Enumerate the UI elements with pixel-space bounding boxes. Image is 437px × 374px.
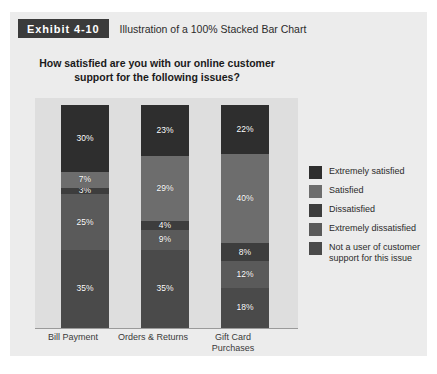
chart-plot-area: 30%7%3%25%35% 23%29%4%9%35% 22%40%8%12%1… bbox=[35, 98, 298, 329]
bar-segment: 40% bbox=[221, 154, 269, 243]
chart-title: How satisfied are you with our online cu… bbox=[28, 56, 286, 84]
bar-segment-label: 30% bbox=[76, 134, 93, 143]
axis-label-line: Orders & Returns bbox=[109, 332, 197, 343]
x-axis-labels: Bill Payment Orders & Returns Gift CardP… bbox=[35, 332, 298, 362]
bar-segment: 29% bbox=[141, 156, 189, 221]
bar-segment-label: 25% bbox=[76, 218, 93, 227]
legend-item: Not a user of customer support for this … bbox=[309, 242, 437, 264]
bar-segment: 3% bbox=[61, 188, 109, 195]
legend-label: Extremely satisfied bbox=[322, 166, 405, 177]
legend-item: Extremely dissatisfied bbox=[309, 223, 437, 236]
bar-segment: 30% bbox=[61, 105, 109, 172]
bar-segment: 4% bbox=[141, 221, 189, 230]
bar-segment-label: 9% bbox=[159, 235, 171, 244]
axis-label-bill-payment: Bill Payment bbox=[29, 332, 117, 343]
axis-label-line: Purchases bbox=[189, 343, 277, 354]
stacked-bar-bill-payment: 30%7%3%25%35% bbox=[61, 105, 109, 328]
axis-label-line: Gift Card bbox=[189, 332, 277, 343]
exhibit-header: Exhibit 4-10 Illustration of a 100% Stac… bbox=[18, 19, 306, 38]
legend-item: Dissatisfied bbox=[309, 204, 437, 217]
bar-segment-label: 29% bbox=[156, 184, 173, 193]
bar-segment-label: 40% bbox=[236, 194, 253, 203]
bar-segment: 12% bbox=[221, 261, 269, 288]
axis-label-gift-card-purchases: Gift CardPurchases bbox=[189, 332, 277, 354]
bar-segment: 18% bbox=[221, 288, 269, 328]
bar-segment: 35% bbox=[61, 250, 109, 328]
stacked-bar-orders-returns: 23%29%4%9%35% bbox=[141, 105, 189, 328]
bar-segment-label: 3% bbox=[79, 188, 91, 195]
bar-segment-label: 23% bbox=[156, 126, 173, 135]
bar-segment: 23% bbox=[141, 105, 189, 156]
axis-label-orders-returns: Orders & Returns bbox=[109, 332, 197, 343]
bar-segment: 9% bbox=[141, 230, 189, 250]
bar-segment-label: 18% bbox=[236, 303, 253, 312]
axis-label-line: Bill Payment bbox=[29, 332, 117, 343]
legend-label: Satisfied bbox=[322, 185, 364, 196]
bar-segment-label: 22% bbox=[236, 125, 253, 134]
bar-segment-label: 8% bbox=[239, 248, 251, 257]
legend-swatch-icon bbox=[309, 242, 322, 255]
legend-item: Extremely satisfied bbox=[309, 166, 437, 179]
bar-segment: 7% bbox=[61, 172, 109, 188]
stacked-bar-gift-card-purchases: 22%40%8%12%18% bbox=[221, 105, 269, 328]
legend-swatch-icon bbox=[309, 223, 322, 236]
bar-segment: 35% bbox=[141, 250, 189, 328]
legend-label: Not a user of customer support for this … bbox=[322, 242, 420, 264]
legend-item: Satisfied bbox=[309, 185, 437, 198]
bar-segment-label: 7% bbox=[79, 175, 91, 184]
bar-segment-label: 12% bbox=[236, 270, 253, 279]
bar-segment-label: 35% bbox=[76, 284, 93, 293]
bar-segment-label: 4% bbox=[159, 221, 171, 230]
legend-swatch-icon bbox=[309, 204, 322, 217]
legend-label: Extremely dissatisfied bbox=[322, 223, 416, 234]
bar-segment: 25% bbox=[61, 194, 109, 250]
exhibit-badge: Exhibit 4-10 bbox=[18, 19, 109, 38]
chart-legend: Extremely satisfiedSatisfiedDissatisfied… bbox=[309, 166, 437, 270]
legend-label: Dissatisfied bbox=[322, 204, 375, 215]
bar-segment-label: 35% bbox=[156, 284, 173, 293]
exhibit-panel: Exhibit 4-10 Illustration of a 100% Stac… bbox=[10, 12, 427, 356]
legend-swatch-icon bbox=[309, 185, 322, 198]
legend-swatch-icon bbox=[309, 166, 322, 179]
exhibit-caption: Illustration of a 100% Stacked Bar Chart bbox=[109, 19, 307, 38]
bar-segment: 8% bbox=[221, 243, 269, 261]
bar-segment: 22% bbox=[221, 105, 269, 154]
